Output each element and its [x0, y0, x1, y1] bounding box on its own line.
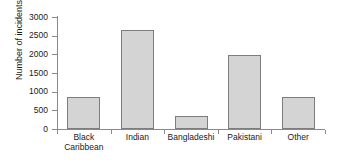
x-axis-line: [57, 129, 325, 130]
bar: [121, 30, 154, 129]
y-axis-tick-label: 1000: [18, 87, 48, 95]
bar: [175, 116, 208, 129]
x-axis-label: Black Caribbean: [53, 133, 115, 152]
y-axis-tick-label: 500: [18, 106, 48, 114]
y-axis-tick-label: 2500: [18, 31, 48, 39]
bar: [67, 97, 100, 129]
y-axis-tick-label: 1500: [18, 69, 48, 77]
plot-area: [57, 17, 325, 129]
x-axis-label: Indian: [107, 133, 169, 143]
y-axis-tick-label: 0: [18, 125, 48, 133]
y-axis-tick-label: 3000: [18, 13, 48, 21]
bar: [228, 55, 261, 129]
x-axis-label: Other: [267, 133, 329, 143]
y-axis-tick-label: 2000: [18, 50, 48, 58]
bar-chart: Number of incidents 05001000150020002500…: [0, 0, 340, 162]
x-axis-label: Bangladeshi: [160, 133, 222, 143]
x-axis-label: Pakistani: [214, 133, 276, 143]
bar: [282, 97, 315, 129]
